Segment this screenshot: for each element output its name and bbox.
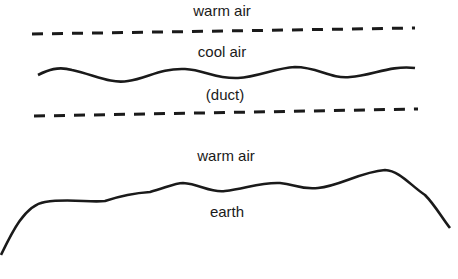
- warm-air-top-label: warm air: [193, 2, 251, 19]
- warm-air-lower-label: warm air: [197, 147, 255, 164]
- upper-dashed-boundary: [32, 28, 415, 34]
- duct-diagram: [0, 0, 458, 279]
- cool-air-label: cool air: [198, 43, 246, 60]
- cool-air-wavy-boundary: [38, 67, 415, 82]
- duct-label: (duct): [206, 86, 244, 103]
- earth-label: earth: [210, 203, 244, 220]
- lower-dashed-boundary: [34, 109, 418, 116]
